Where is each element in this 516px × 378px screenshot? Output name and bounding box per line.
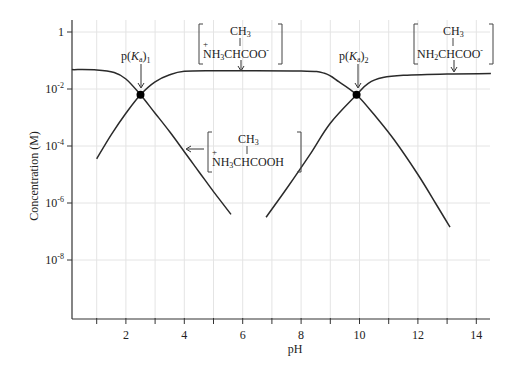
zwitterion-curve (97, 71, 450, 227)
x-tick-label: 6 (240, 328, 246, 342)
x-axis-label: pH (288, 342, 303, 356)
x-tick-label: 8 (298, 328, 304, 342)
pka-markers (137, 91, 361, 99)
bracket-right (278, 24, 282, 64)
svg-text:CH3: CH3 (443, 24, 464, 39)
species-curves (72, 70, 491, 228)
y-tick-label: 1 (58, 25, 64, 39)
svg-text:NH3CHCOO-: NH3CHCOO- (203, 46, 269, 62)
pka2-point (353, 91, 361, 99)
svg-text:p(Ka)1: p(Ka)1 (121, 49, 151, 65)
pka1-point (137, 91, 145, 99)
x-tick-label: 10 (354, 328, 366, 342)
x-tick-label: 2 (123, 328, 129, 342)
y-tick-label: 10-6 (45, 195, 64, 210)
zwitterion-structure-label: CH3 + NH3CHCOO- (199, 24, 282, 71)
x-tick-label: 14 (470, 328, 482, 342)
x-tick-label: 12 (412, 328, 424, 342)
svg-text:p(Ka)2: p(Ka)2 (339, 49, 369, 65)
y-tick-label: 10-8 (45, 252, 64, 267)
svg-text:CH3: CH3 (238, 132, 259, 147)
svg-text:NH3CHCOOH: NH3CHCOOH (212, 155, 284, 170)
bracket-right (297, 132, 301, 172)
grid-lines (72, 20, 490, 319)
cation-structure-label: CH3 + NH3CHCOOH (186, 132, 301, 172)
y-tick-label: 10-4 (45, 138, 64, 153)
x-tick-label: 4 (181, 328, 187, 342)
cation-curve (72, 70, 231, 215)
axes: 2468101214110-210-410-610-8 (45, 20, 490, 342)
svg-text:CH3: CH3 (230, 24, 251, 39)
pka2-label: p(Ka)2 (339, 49, 369, 88)
y-axis-label: Concentration (M) (27, 131, 41, 221)
titration-species-chart: 2468101214110-210-410-610-8 pH Concentra… (0, 0, 516, 378)
y-tick-label: 10-2 (45, 81, 64, 96)
anion-curve (266, 74, 491, 218)
bracket-right (489, 24, 493, 64)
anion-structure-label: CH3 NH2CHCOO- (414, 24, 493, 72)
svg-text:NH2CHCOO-: NH2CHCOO- (417, 46, 483, 62)
